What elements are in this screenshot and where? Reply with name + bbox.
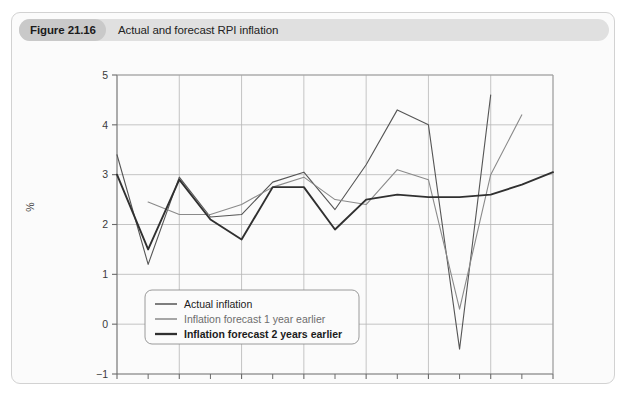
svg-text:2002: 2002	[230, 381, 254, 383]
svg-text:1998: 1998	[105, 381, 129, 383]
svg-text:2: 2	[102, 218, 108, 230]
rpi-inflation-line-chart: 543210−1 1998200020022004200620082010201…	[12, 47, 614, 383]
svg-text:3: 3	[102, 168, 108, 180]
figure-card: Figure 21.16 Actual and forecast RPI inf…	[11, 12, 615, 384]
svg-text:2006: 2006	[354, 381, 378, 383]
svg-text:5: 5	[102, 69, 108, 81]
svg-text:2004: 2004	[292, 381, 316, 383]
svg-text:1: 1	[102, 268, 108, 280]
svg-text:0: 0	[102, 318, 108, 330]
legend-label-1: Inflation forecast 1 year earlier	[184, 313, 326, 325]
svg-text:−1: −1	[96, 368, 108, 380]
y-axis-title: %	[24, 202, 36, 211]
figure-number-badge: Figure 21.16	[19, 19, 106, 41]
chart-plot-area: 543210−1 1998200020022004200620082010201…	[12, 47, 614, 383]
svg-text:2000: 2000	[168, 381, 192, 383]
figure-title: Actual and forecast RPI inflation	[106, 24, 278, 36]
chart-legend[interactable]: Actual inflationInflation forecast 1 yea…	[145, 290, 359, 344]
legend-label-0: Actual inflation	[184, 298, 252, 310]
series-line-2	[117, 172, 553, 249]
y-axis-tick-labels: 543210−1	[96, 69, 117, 380]
svg-text:4: 4	[102, 119, 108, 131]
svg-text:2012: 2012	[541, 381, 565, 383]
legend-label-2: Inflation forecast 2 years earlier	[184, 328, 342, 340]
figure-header: Figure 21.16 Actual and forecast RPI inf…	[19, 19, 609, 41]
svg-text:2010: 2010	[479, 381, 503, 383]
svg-text:2008: 2008	[417, 381, 441, 383]
x-axis-tick-labels: 19982000200220042006200820102012	[105, 374, 565, 383]
